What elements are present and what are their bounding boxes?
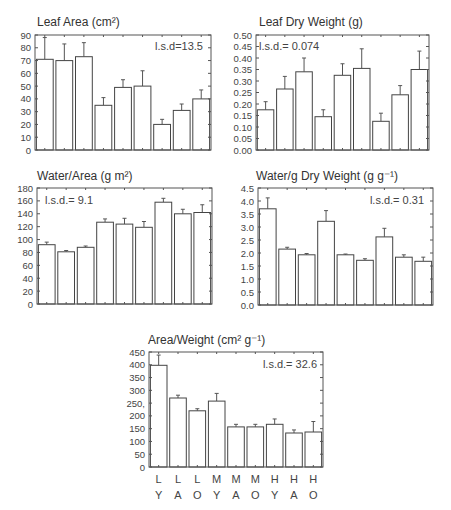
bar	[354, 68, 371, 150]
y-tick-label: 250,	[127, 398, 146, 409]
x-label-level: H	[271, 473, 279, 485]
bar	[173, 110, 190, 150]
y-tick-label: 180	[17, 183, 33, 194]
y-tick-label: 300	[129, 385, 145, 396]
bar	[318, 221, 335, 305]
bar	[337, 255, 354, 305]
y-tick-label: 0.0	[241, 300, 254, 311]
y-tick-label: 100	[17, 234, 33, 245]
y-tick-label: 50	[20, 81, 31, 92]
lsd-annotation: l.s.d=13.5	[155, 40, 203, 52]
lsd-annotation: l.s.d.= 32.6	[263, 358, 317, 370]
x-label-age: Y	[271, 489, 279, 501]
chart-water-area: Water/Area (g m²) l.s.d.= 9.1 0204060801…	[17, 169, 212, 310]
chart-area-weight: Area/Weight (cm² g⁻¹) l.s.d.= 32.6 05010…	[127, 333, 324, 501]
bar	[193, 99, 210, 150]
bar	[315, 117, 332, 150]
y-tick-label: 90	[20, 30, 31, 41]
bar	[150, 365, 167, 467]
bar	[77, 247, 94, 304]
y-tick-label: 200	[129, 410, 145, 421]
bar	[286, 433, 303, 467]
x-label-age: Y	[213, 489, 221, 501]
x-label-age: A	[290, 489, 298, 501]
y-tick-label: 80	[22, 247, 33, 258]
bar	[76, 57, 93, 150]
chart-title: Leaf Dry Weight (g)	[259, 15, 363, 29]
bar	[56, 61, 73, 150]
figure-panel: Leaf Area (cm²) l.s.d=13.5 0102030405060…	[0, 0, 451, 510]
bar	[266, 424, 283, 467]
lsd-annotation: l.s.d.= 9.1	[45, 194, 93, 206]
y-tick-label: 50	[134, 449, 145, 460]
bar	[154, 124, 171, 150]
y-tick-label: 70	[20, 55, 31, 66]
x-label-level: M	[251, 473, 260, 485]
y-tick-label: 0.50	[234, 30, 253, 41]
y-tick-label: 1.0	[241, 274, 254, 285]
y-tick-label: 20	[20, 119, 31, 130]
bar	[58, 252, 75, 304]
y-tick-label: 0	[26, 145, 31, 156]
y-tick-label: 0.05	[234, 133, 253, 144]
y-tick-label: 20	[22, 286, 33, 297]
y-tick-label: 100	[129, 436, 145, 447]
bar	[411, 70, 428, 151]
chart-leaf-dry-weight: Leaf Dry Weight (g) l.s.d.= 0.074 0.000.…	[234, 15, 430, 156]
y-tick-label: 140	[17, 208, 33, 219]
x-label-age: Y	[155, 489, 163, 501]
y-tick-label: 30	[20, 106, 31, 117]
y-tick-label: 60	[22, 260, 33, 271]
y-tick-label: 40	[20, 93, 31, 104]
bar	[376, 237, 393, 305]
chart-title: Water/g Dry Weight (g g⁻¹)	[256, 169, 398, 183]
y-tick-label: 0.40	[234, 53, 253, 64]
y-tick-label: 60	[20, 68, 31, 79]
bar	[194, 213, 211, 305]
y-tick-label: 0.45	[234, 41, 253, 52]
bar	[228, 427, 245, 467]
bar	[155, 202, 172, 304]
y-tick-label: 0.25	[234, 87, 253, 98]
bar	[208, 401, 225, 467]
bar	[175, 214, 192, 304]
bar	[396, 257, 413, 305]
lsd-annotation: l.s.d.= 0.074	[259, 40, 319, 52]
x-label-age: O	[193, 489, 202, 501]
chart-title: Water/Area (g m²)	[37, 169, 133, 183]
x-label-level: M	[231, 473, 240, 485]
chart-title: Area/Weight (cm² g⁻¹)	[148, 333, 265, 347]
y-tick-label: 0.00	[234, 145, 253, 156]
bar	[373, 121, 390, 150]
bar	[305, 432, 322, 467]
x-label-age: A	[232, 489, 240, 501]
y-tick-label: 0.10	[234, 122, 253, 133]
bar	[116, 224, 133, 304]
bar	[415, 261, 432, 305]
y-tick-label: 2.5	[241, 235, 254, 246]
y-tick-label: 0.5	[241, 287, 254, 298]
y-tick-label: 4.0	[241, 196, 254, 207]
bar	[298, 255, 315, 305]
bar	[115, 87, 132, 150]
bar	[95, 105, 112, 150]
x-label-level: L	[194, 473, 200, 485]
bar	[277, 89, 294, 150]
chart-leaf-area: Leaf Area (cm²) l.s.d=13.5 0102030405060…	[20, 15, 211, 156]
bar	[136, 227, 153, 304]
bar	[259, 209, 276, 305]
bar	[334, 75, 351, 150]
y-tick-label: 0	[28, 299, 33, 310]
bar	[189, 411, 206, 467]
x-label-age: O	[309, 489, 318, 501]
x-label-level: H	[309, 473, 317, 485]
y-tick-label: 4.5	[241, 183, 254, 194]
bar	[97, 222, 114, 304]
x-label-age: A	[174, 489, 182, 501]
bar	[296, 72, 313, 150]
y-tick-label: 450	[129, 347, 145, 358]
y-tick-label: 1.5	[241, 261, 254, 272]
lsd-annotation: l.s.d.= 0.31	[370, 194, 424, 206]
bar	[392, 95, 409, 150]
y-tick-label: 10	[20, 132, 31, 143]
